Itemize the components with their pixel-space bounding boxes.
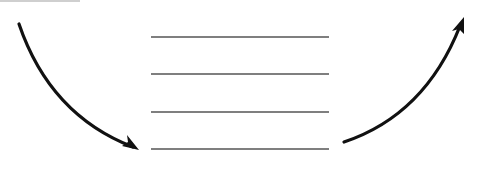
incoming-arrow-icon bbox=[19, 24, 133, 147]
stacked-lines bbox=[151, 37, 329, 149]
outgoing-arrow-icon bbox=[344, 26, 460, 142]
flow-diagram bbox=[0, 0, 478, 182]
